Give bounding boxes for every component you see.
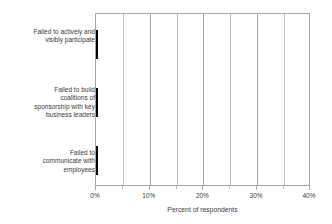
gridline-10 — [150, 14, 151, 185]
category-label-line: coalitions of — [3, 94, 95, 102]
gridline-15 — [177, 14, 178, 185]
category-label-2: Failed to communicate with employees — [3, 149, 95, 174]
xtick-minor-35 — [283, 186, 284, 189]
bar-failed-to-actively-and-visibly-participate — [96, 30, 98, 59]
xtick-label-0: 0% — [75, 192, 115, 199]
gridline-20 — [203, 14, 204, 185]
gridline-30 — [257, 14, 258, 185]
category-label-1: Failed to build coalitions of sponsorshi… — [3, 86, 95, 120]
xtick-40 — [309, 186, 310, 190]
xtick-30 — [256, 186, 257, 190]
xtick-minor-15 — [176, 186, 177, 189]
gridline-5 — [123, 14, 124, 185]
bar-failed-to-build-coalitions-of-sponsorship — [96, 88, 98, 117]
category-label-line: Failed to — [3, 149, 95, 157]
category-label-line: communicate with — [3, 157, 95, 165]
category-label-line: business leaders — [3, 111, 95, 119]
category-label-line: employees — [3, 166, 95, 174]
category-label-0: Failed to actively and visibly participa… — [3, 28, 95, 45]
xtick-20 — [202, 186, 203, 190]
xtick-label-30: 30% — [236, 192, 276, 199]
xtick-minor-25 — [229, 186, 230, 189]
xtick-0 — [95, 186, 96, 190]
xtick-10 — [149, 186, 150, 190]
bar-chart: Failed to actively and visibly participa… — [0, 0, 332, 224]
x-axis-title: Percent of respondents — [95, 206, 310, 213]
bar-failed-to-communicate-with-employees — [96, 146, 98, 175]
plot-area — [95, 13, 310, 186]
category-label-line: Failed to actively and — [3, 28, 95, 36]
xtick-label-40: 40% — [289, 192, 329, 199]
gridline-35 — [284, 14, 285, 185]
gridline-25 — [230, 14, 231, 185]
xtick-label-10: 10% — [129, 192, 169, 199]
xtick-label-20: 20% — [182, 192, 222, 199]
category-label-line: visibly participate — [3, 36, 95, 44]
xtick-minor-5 — [122, 186, 123, 189]
category-label-line: Failed to build — [3, 86, 95, 94]
category-label-line: sponsorship with key — [3, 103, 95, 111]
